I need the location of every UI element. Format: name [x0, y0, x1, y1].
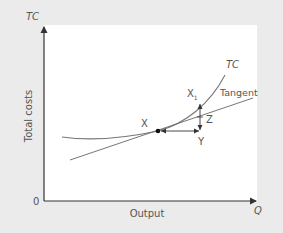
total-cost-diagram: TC Total costs 0 Q Output TC Tangent X X… [0, 0, 283, 233]
origin-label: 0 [33, 196, 39, 207]
tangent-label: Tangent [219, 87, 258, 98]
x-axis-label: Output [130, 208, 165, 219]
point-z-label: Z [206, 114, 213, 125]
y-axis-symbol: TC [26, 11, 39, 22]
point-x-dot [156, 129, 161, 134]
y-axis-label: Total costs [23, 90, 34, 144]
plot-panel [44, 25, 257, 201]
curve-label: TC [226, 59, 239, 70]
x-axis-symbol: Q [254, 205, 262, 216]
point-y-label: Y [197, 136, 205, 147]
point-x-label: X [141, 118, 148, 129]
